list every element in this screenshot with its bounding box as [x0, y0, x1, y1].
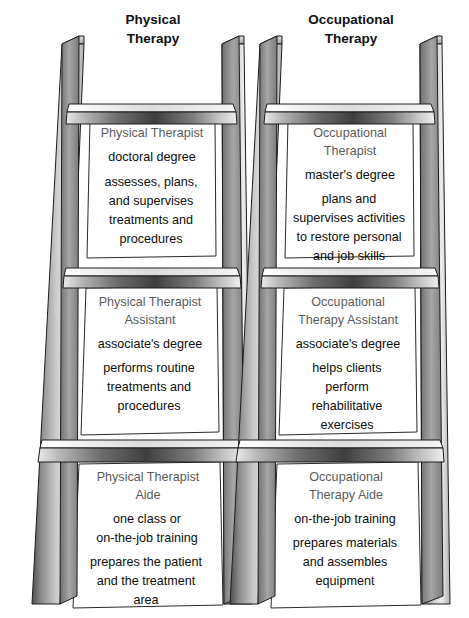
step-title-line: Therapy Assistant — [298, 313, 399, 327]
step-duty-line: exercises — [320, 418, 373, 432]
step-title-line: Occupational — [313, 126, 387, 140]
step-title-line: Assistant — [124, 313, 176, 327]
step-duty-line: equipment — [316, 574, 375, 588]
rung-physical-bottom — [38, 440, 246, 462]
step-title-line: Physical Therapist — [101, 126, 204, 140]
rung-occupational-bottom — [236, 440, 444, 462]
step-duty-line: and job skills — [313, 249, 385, 263]
step-duty-line: prepares the patient — [90, 555, 203, 569]
heading-line-2: Therapy — [325, 31, 378, 46]
step-title-line: Therapy Aide — [309, 488, 383, 502]
step-title-line: Aide — [135, 488, 160, 502]
step-credential-line: master's degree — [305, 168, 395, 182]
step-credential-line: associate's degree — [98, 337, 203, 351]
step-duty-line: helps clients — [312, 361, 381, 375]
career-ladder-diagram: Physical Therapy Physical Therapist doct… — [0, 0, 469, 618]
step-duty-line: treatments and — [109, 213, 193, 227]
rung-occupational-middle — [261, 268, 439, 288]
step-duty-line: treatments and — [107, 380, 191, 394]
step-title-line: Therapist — [324, 144, 377, 158]
step-credential-line: associate's degree — [296, 337, 401, 351]
step-duty-line: assesses, plans, — [104, 175, 197, 189]
step-duty-line: and the treatment — [97, 574, 196, 588]
step-title-line: Occupational — [309, 470, 383, 484]
step-duty-line: procedures — [119, 232, 182, 246]
step-credential-line: doctoral degree — [108, 150, 196, 164]
step-duty-line: to restore personal — [296, 230, 401, 244]
step-duty-line: plans and — [322, 192, 377, 206]
step-credential-line: on-the-job training — [96, 531, 198, 545]
heading-line-2: Therapy — [127, 31, 180, 46]
step-duty-line: prepares materials — [293, 536, 397, 550]
step-duty-line: rehabilitative — [312, 399, 383, 413]
rung-physical-middle — [63, 268, 241, 288]
step-duty-line: procedures — [117, 399, 180, 413]
step-title-line: Physical Therapist — [99, 295, 202, 309]
step-title-line: Physical Therapist — [97, 470, 200, 484]
rung-physical-top — [66, 104, 237, 124]
heading-line-1: Physical — [126, 12, 181, 27]
step-duty-line: supervises activities — [293, 211, 405, 225]
step-duty-line: and supervises — [109, 194, 194, 208]
heading-line-1: Occupational — [308, 12, 394, 27]
step-duty-line: performs routine — [103, 361, 195, 375]
step-duty-line: area — [133, 593, 158, 607]
step-duty-line: and assembles — [303, 555, 388, 569]
step-duty-line: perform — [325, 380, 368, 394]
step-credential-line: one class or — [113, 512, 181, 526]
rung-occupational-top — [264, 104, 435, 124]
step-title-line: Occupational — [311, 295, 385, 309]
step-credential-line: on-the-job training — [294, 512, 396, 526]
